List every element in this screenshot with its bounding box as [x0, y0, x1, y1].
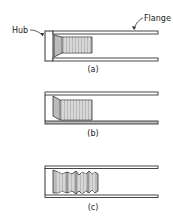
flange-arrow-icon	[132, 26, 136, 30]
panel-a: Hub Flange (a)	[12, 14, 171, 74]
hub	[45, 31, 53, 61]
hub-label: Hub	[12, 26, 28, 35]
flange-bottom	[53, 58, 158, 61]
caption-a: (a)	[87, 65, 98, 74]
flange-top	[53, 31, 158, 34]
panel-b: (b)	[45, 92, 158, 138]
bellows-diagram: Hub Flange (a)	[0, 0, 173, 219]
flange-label: Flange	[144, 14, 171, 23]
caption-b: (b)	[87, 129, 98, 138]
hub-arrow-icon	[40, 33, 44, 36]
bellows-b	[53, 96, 92, 120]
flange-bottom	[45, 195, 158, 198]
bellows-c	[53, 170, 98, 194]
flange-top	[45, 166, 158, 169]
flange-bottom	[45, 121, 158, 124]
bellows-a	[54, 35, 92, 57]
flange-top	[45, 92, 158, 95]
panel-c: (c)	[45, 166, 158, 212]
caption-c: (c)	[88, 203, 99, 212]
